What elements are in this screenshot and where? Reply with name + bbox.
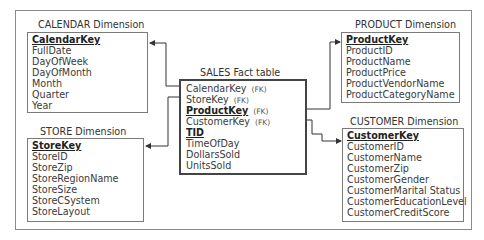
customer-attribute: CustomerID (347, 141, 463, 152)
sales-fact-table: CalendarKey(FK) StoreKey(FK) ProductKey(… (179, 79, 307, 175)
product-attribute: ProductCategoryName (346, 89, 459, 100)
fact-attribute-dollarssold: DollarsSold (186, 149, 305, 160)
fact-attribute-unitssold: UnitsSold (186, 160, 305, 171)
customer-attribute: CustomerMarital Status (347, 185, 463, 196)
calendar-attribute: DayOfMonth (32, 67, 147, 78)
calendar-dimension-table: CalendarKey FullDate DayOfWeek DayOfMont… (27, 32, 148, 113)
fact-attribute-calendarkey: CalendarKey(FK) (186, 83, 305, 94)
store-dimension-table: StoreKey StoreID StoreZip StoreRegionNam… (27, 138, 144, 222)
attribute-name: CustomerKey (186, 116, 250, 127)
fact-attribute-timeofday: TimeOfDay (186, 138, 305, 149)
store-attribute: StoreLayout (32, 206, 143, 217)
fact-attribute-customerkey: CustomerKey(FK) (186, 116, 305, 127)
calendar-attribute: FullDate (32, 45, 147, 56)
customer-attribute: CustomerGender (347, 174, 463, 185)
store-attribute: StoreSize (32, 184, 143, 195)
customer-key-attribute: CustomerKey (347, 130, 463, 141)
product-attribute: ProductName (346, 56, 459, 67)
store-key-attribute: StoreKey (32, 140, 143, 151)
product-dimension-title: PRODUCT Dimension (355, 19, 456, 30)
fact-attribute-productkey: ProductKey(FK) (186, 105, 305, 116)
attribute-name: ProductKey (186, 105, 248, 116)
product-attribute: ProductPrice (346, 67, 459, 78)
calendar-dimension-title: CALENDAR Dimension (38, 19, 144, 30)
calendar-attribute: DayOfWeek (32, 56, 147, 67)
calendar-attribute: Quarter (32, 89, 147, 100)
customer-dimension-table: CustomerKey CustomerID CustomerName Cust… (342, 128, 464, 222)
store-attribute: StoreRegionName (32, 173, 143, 184)
store-dimension-title: STORE Dimension (40, 126, 126, 137)
fk-tag: (FK) (255, 117, 270, 128)
calendar-key-attribute: CalendarKey (32, 34, 147, 45)
customer-dimension-title: CUSTOMER Dimension (350, 116, 458, 127)
attribute-name: StoreKey (186, 94, 229, 105)
store-attribute: StoreID (32, 151, 143, 162)
store-attribute: StoreCSystem (32, 195, 143, 206)
fk-tag: (FK) (252, 84, 267, 95)
store-attribute: StoreZip (32, 162, 143, 173)
customer-attribute: CustomerEducationLevel (347, 196, 463, 207)
calendar-attribute: Month (32, 78, 147, 89)
customer-attribute: CustomerName (347, 152, 463, 163)
product-attribute: ProductID (346, 45, 459, 56)
product-key-attribute: ProductKey (346, 34, 459, 45)
customer-attribute: CustomerCreditScore (347, 207, 463, 218)
sales-fact-title: SALES Fact table (200, 67, 280, 78)
attribute-name: CalendarKey (186, 83, 247, 94)
calendar-attribute: Year (32, 100, 147, 111)
customer-attribute: CustomerZip (347, 163, 463, 174)
fact-attribute-tid: TID (186, 127, 305, 138)
product-attribute: ProductVendorName (346, 78, 459, 89)
product-dimension-table: ProductKey ProductID ProductName Product… (341, 32, 460, 103)
fact-attribute-storekey: StoreKey(FK) (186, 94, 305, 105)
